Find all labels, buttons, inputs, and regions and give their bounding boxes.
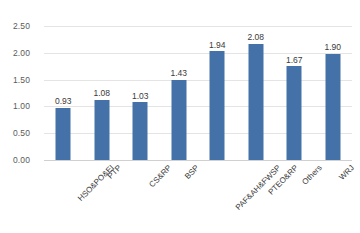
bar-value-label: 1.90	[324, 43, 341, 52]
bar[interactable]	[248, 44, 263, 160]
bar-value-label: 2.08	[247, 33, 264, 42]
ytick-label-0-50: 0.50	[0, 129, 30, 138]
x-axis-labels: HSO&PO&EI PTP CS&RP BSP PAF&AH&FWSP PTEO…	[44, 162, 352, 233]
bar-slot: 1.08	[83, 20, 122, 160]
xlabel-category: Others	[301, 164, 324, 187]
bar-chart: 2.50 2.00 1.50 1.00 0.50 0.00 0.93 1.08 …	[0, 0, 360, 233]
bar[interactable]	[287, 66, 302, 160]
bar[interactable]	[56, 108, 71, 160]
ytick-label-1-00: 1.00	[0, 102, 30, 111]
bar[interactable]	[171, 80, 186, 160]
bar-value-label: 1.08	[93, 89, 110, 98]
ytick-label-0-00: 0.00	[0, 156, 30, 165]
bar-slot: 0.93	[44, 20, 83, 160]
bar[interactable]	[325, 54, 340, 160]
bar-value-label: 1.94	[209, 41, 226, 50]
ytick-label-2-00: 2.00	[0, 49, 30, 58]
xlabel-category: BSP	[183, 164, 200, 181]
bar-slot: 1.03	[121, 20, 160, 160]
xlabel-category: CS&RP	[148, 164, 173, 189]
bar-slot: 1.43	[160, 20, 199, 160]
ytick-label-2-50: 2.50	[0, 22, 30, 31]
bar-slot: 2.08	[237, 20, 276, 160]
bar-slot: 1.94	[198, 20, 237, 160]
bar-slot: 1.67	[275, 20, 314, 160]
bar-value-label: 1.43	[170, 69, 187, 78]
bar-value-label: 1.03	[132, 92, 149, 101]
bar[interactable]	[133, 102, 148, 160]
bar-slot: 1.90	[314, 20, 353, 160]
bar[interactable]	[94, 100, 109, 160]
bar[interactable]	[210, 51, 225, 160]
bars-layer: 0.93 1.08 1.03 1.43 1.94 2.08 1.67 1.90	[44, 20, 352, 160]
ytick-label-1-50: 1.50	[0, 76, 30, 85]
xlabel-category: WRJ	[338, 164, 356, 182]
bar-value-label: 1.67	[286, 56, 303, 65]
bar-value-label: 0.93	[55, 97, 72, 106]
axis-baseline	[44, 160, 352, 161]
